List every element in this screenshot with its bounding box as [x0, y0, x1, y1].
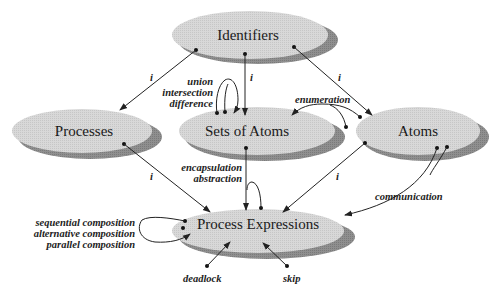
- edge-composition-loop: sequential composition alternative compo…: [34, 217, 190, 250]
- edge-label-parallel-composition: parallel composition: [46, 239, 136, 250]
- edge-label-abstraction: abstraction: [194, 173, 243, 184]
- node-processes: Processes: [12, 109, 162, 159]
- node-label-sets-of-atoms: Sets of Atoms: [205, 123, 289, 139]
- edge-label-intersection: intersection: [162, 87, 213, 98]
- node-identifiers: Identifiers: [172, 11, 338, 64]
- node-label-atoms: Atoms: [398, 123, 438, 139]
- edge-label-communication: communication: [375, 191, 443, 202]
- edge-label-sequential-composition: sequential composition: [35, 217, 136, 228]
- edge-label-i: i: [150, 171, 153, 182]
- node-label-identifiers: Identifiers: [217, 27, 279, 43]
- edge-label-encapsulation: encapsulation: [181, 162, 242, 173]
- edge-label-deadlock: deadlock: [183, 273, 222, 284]
- edge-label-i: i: [150, 72, 153, 83]
- edge-label-i: i: [250, 72, 253, 83]
- edge-label-skip: skip: [282, 273, 301, 284]
- edge-label-i: i: [338, 72, 341, 83]
- node-atoms: Atoms: [356, 107, 489, 161]
- node-process-expressions: Process Expressions: [172, 209, 355, 259]
- edge-label-enumeration: enumeration: [295, 94, 351, 105]
- node-label-process-expressions: Process Expressions: [197, 216, 319, 232]
- node-sets-of-atoms: Sets of Atoms: [179, 107, 345, 161]
- edge-label-union: union: [187, 76, 213, 87]
- node-label-processes: Processes: [55, 123, 113, 139]
- edge-label-alternative-composition: alternative composition: [34, 228, 135, 239]
- diagram-canvas: Identifiers Processes Sets of Atoms Atom…: [0, 0, 504, 303]
- edge-label-difference: difference: [169, 98, 213, 109]
- edge-label-i: i: [336, 171, 339, 182]
